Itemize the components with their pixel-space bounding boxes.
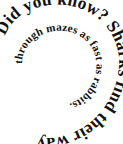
inner-ring-textpath: through mazes as fast as rabbits. [12, 21, 107, 114]
spiral-text-figure: Did you know? Sharks find their way thro… [0, 0, 123, 144]
inner-ring-text: through mazes as fast as rabbits. [12, 21, 107, 114]
spiral-text-canvas: Did you know? Sharks find their way thro… [0, 0, 123, 144]
